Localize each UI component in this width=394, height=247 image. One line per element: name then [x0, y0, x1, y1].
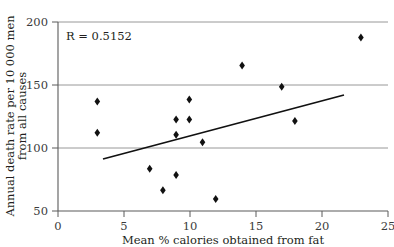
y-axis-title-line-2: from all causes	[15, 72, 29, 161]
data-point	[95, 98, 101, 106]
data-point	[200, 138, 206, 146]
data-point	[239, 61, 245, 69]
x-tick-label-5: 5	[120, 219, 127, 233]
y-axis-tick-labels: 200 150 100 50	[26, 15, 48, 218]
y-tick-label-200: 200	[26, 15, 48, 29]
correlation-annotation: R = 0.5152	[66, 29, 132, 43]
axes	[58, 22, 388, 211]
data-point	[173, 131, 179, 139]
x-axis-ticks	[58, 211, 388, 217]
x-axis-tick-labels: 0 5 10 15 20 25	[54, 219, 394, 233]
chart-canvas: 200 150 100 50 0 5 10 15 20 25 Mean % ca…	[0, 0, 394, 247]
data-point	[147, 165, 153, 173]
y-axis-title: Annual death rate per 10 000 men from al…	[3, 15, 29, 218]
data-point	[173, 116, 179, 124]
x-tick-label-20: 20	[315, 219, 330, 233]
data-point	[279, 83, 285, 91]
data-point	[213, 195, 219, 203]
scatter-plot-figure: 200 150 100 50 0 5 10 15 20 25 Mean % ca…	[0, 0, 394, 247]
y-tick-label-100: 100	[26, 141, 48, 155]
data-point	[173, 171, 179, 179]
x-tick-label-25: 25	[381, 219, 394, 233]
data-points	[95, 34, 364, 203]
data-point	[95, 129, 101, 137]
y-axis-ticks	[52, 22, 58, 211]
x-axis-title: Mean % calories obtained from fat	[122, 233, 325, 247]
x-tick-label-10: 10	[183, 219, 198, 233]
y-tick-label-150: 150	[26, 78, 48, 92]
data-point	[187, 116, 193, 124]
x-tick-label-15: 15	[249, 219, 264, 233]
x-tick-label-0: 0	[54, 219, 61, 233]
data-point	[358, 34, 364, 42]
data-point	[292, 117, 298, 125]
y-tick-label-50: 50	[33, 204, 48, 218]
trendline	[103, 95, 344, 159]
data-point	[187, 96, 193, 104]
data-point	[160, 186, 166, 194]
